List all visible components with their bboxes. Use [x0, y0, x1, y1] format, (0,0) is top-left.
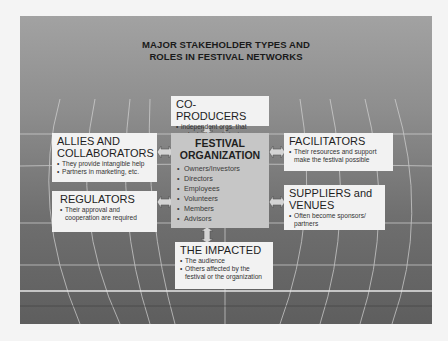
double-arrow-icon [269, 194, 285, 210]
double-arrow-icon [196, 227, 218, 243]
box-heading: THE IMPACTED [180, 244, 268, 256]
box-bullet: Partners in marketing, etc. [57, 168, 152, 176]
center-heading-line-2: ORGANIZATION [177, 149, 263, 161]
box-heading-line-2: VENUES [289, 199, 380, 211]
stakeholder-box-suppliers: SUPPLIERS and VENUES Often become sponso… [284, 185, 385, 230]
box-heading: REGULATORS [60, 193, 152, 205]
center-bullet: Members [177, 204, 263, 214]
double-arrow-icon [269, 144, 285, 160]
center-bullet: Owners/Investors [177, 164, 263, 174]
box-bullet: Often become sponsors/ partners [289, 212, 380, 228]
stakeholder-box-allies: ALLIES AND COLLABORATORS They provide in… [52, 133, 157, 182]
stakeholder-box-facilitators: FACILITATORS Their resources and support… [284, 133, 393, 171]
stakeholder-box-regulators: REGULATORS Their approval and cooperatio… [52, 191, 157, 232]
box-bullet: Their resources and support make the fes… [289, 148, 388, 164]
box-heading-line-1: ALLIES AND [57, 135, 152, 147]
box-heading: FACILITATORS [289, 135, 388, 147]
center-bullet: Employees [177, 184, 263, 194]
box-bullet: Their approval and cooperation are requi… [60, 206, 152, 222]
center-bullet: Volunteers [177, 194, 263, 204]
box-bullet: The audience [180, 257, 268, 265]
box-heading-line-2: COLLABORATORS [57, 147, 152, 159]
title-line-2: ROLES IN FESTIVAL NETWORKS [20, 51, 432, 63]
box-heading-line-1: SUPPLIERS and [289, 187, 380, 199]
center-bullet: Advisors [177, 214, 263, 224]
stakeholder-box-coproducers: CO-PRODUCERS independent orgs. that volu… [171, 96, 269, 126]
diagram-title: MAJOR STAKEHOLDER TYPES AND ROLES IN FES… [20, 39, 432, 63]
stakeholder-box-impacted: THE IMPACTED The audience Others affecte… [175, 242, 273, 289]
box-heading: CO-PRODUCERS [176, 98, 264, 122]
festival-organization-box: FESTIVAL ORGANIZATION Owners/Investors D… [171, 133, 269, 228]
center-bullet: Directors [177, 174, 263, 184]
box-bullet: They provide intangible help [57, 160, 152, 168]
diagram-panel: MAJOR STAKEHOLDER TYPES AND ROLES IN FES… [20, 16, 432, 324]
box-bullet: Others affected by the festival or the o… [180, 265, 268, 281]
title-line-1: MAJOR STAKEHOLDER TYPES AND [20, 39, 432, 51]
center-heading-line-1: FESTIVAL [177, 137, 263, 149]
